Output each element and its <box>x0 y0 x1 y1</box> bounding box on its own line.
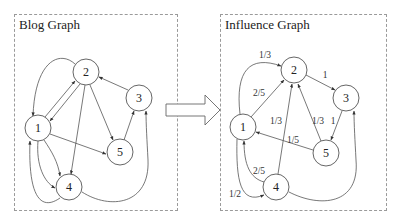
svg-text:4: 4 <box>273 180 279 194</box>
blog-node-5: 5 <box>107 139 133 165</box>
svg-text:3: 3 <box>343 91 349 105</box>
weight-3-5: 1 <box>331 116 336 126</box>
blog-node-1: 1 <box>25 115 51 141</box>
svg-text:3: 3 <box>136 91 142 105</box>
right-arrow-icon <box>166 95 220 125</box>
influence-node-4: 4 <box>263 174 289 200</box>
influence-node-5: 5 <box>313 140 339 166</box>
blog-node-4: 4 <box>56 174 82 200</box>
svg-text:2: 2 <box>83 65 89 79</box>
weight-5-1: 1/5 <box>287 135 299 145</box>
svg-text:1: 1 <box>35 121 41 135</box>
influence-node-3: 3 <box>333 85 359 111</box>
blog-node-2: 2 <box>73 59 99 85</box>
svg-text:5: 5 <box>117 145 123 159</box>
weight-4-2: 1/3 <box>270 116 282 126</box>
influence-node-1: 1 <box>230 114 256 140</box>
edge-1-4-curve <box>38 141 55 188</box>
edge-2-5 <box>90 85 113 140</box>
edge-4-1-curve <box>30 141 60 203</box>
edge-2-4 <box>71 85 85 174</box>
weight-1-4: 1/2 <box>229 189 241 199</box>
blog-node-3: 3 <box>126 85 152 111</box>
svg-text:2: 2 <box>291 63 297 77</box>
weight-1-2-curve: 1/3 <box>259 50 271 60</box>
edge-2-1-curve <box>33 58 75 116</box>
svg-text:1: 1 <box>240 120 246 134</box>
edge-2-1 <box>50 84 80 121</box>
edge-1-5 <box>50 134 106 154</box>
weight-2-3: 1 <box>323 70 328 80</box>
edge-1-2 <box>45 81 75 117</box>
svg-text:4: 4 <box>66 180 72 194</box>
graphs-canvas: 1 2 3 4 5 <box>0 0 399 219</box>
weight-1-2: 2/5 <box>253 88 265 98</box>
svg-text:5: 5 <box>323 146 329 160</box>
edge-1-4 <box>44 140 60 176</box>
influence-node-2: 2 <box>281 57 307 83</box>
edge-1-2 <box>251 80 284 117</box>
weight-5-2: 1/3 <box>312 116 324 126</box>
edge-4-2 <box>278 84 292 174</box>
weight-4-1: 2/5 <box>253 166 265 176</box>
edge-5-3 <box>124 111 134 140</box>
edge-2-3 <box>306 75 335 90</box>
edge-5-2 <box>298 84 321 141</box>
edge-3-2 <box>99 77 128 90</box>
